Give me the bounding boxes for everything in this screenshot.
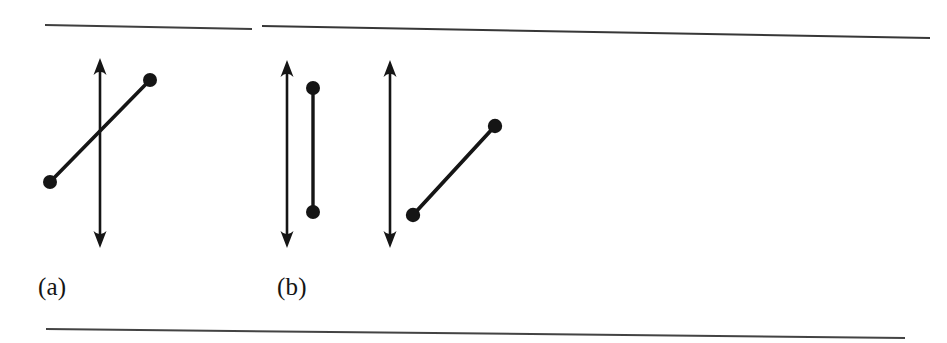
- bottom-rule-line: [46, 329, 905, 338]
- segment-endpoint-dot-end: [488, 119, 502, 133]
- segment-b-oblique-with-endpoints: [406, 119, 502, 222]
- segment-endpoint-dot-end: [306, 205, 320, 219]
- double-headed-arrows-group: [94, 58, 397, 248]
- figure-drawing-canvas: [0, 0, 947, 343]
- figure-container: (a) (b): [0, 0, 947, 343]
- segment-line: [413, 126, 495, 215]
- arrow-b-left-vertical-double-arrow: [281, 60, 294, 248]
- segment-endpoint-dot-start: [406, 208, 420, 222]
- arrow-a-vertical-double-arrow: [94, 58, 107, 248]
- segment-b-vertical-with-endpoints: [306, 81, 320, 219]
- line-segments-group: [43, 73, 502, 222]
- arrow-b-right-vertical-double-arrow: [384, 60, 397, 248]
- horizontal-rules-group: [45, 25, 930, 338]
- segment-endpoint-dot-start: [306, 81, 320, 95]
- segment-endpoint-dot-end: [143, 73, 157, 87]
- segment-endpoint-dot-start: [43, 175, 57, 189]
- panel-label-a: (a): [38, 274, 66, 299]
- top-rule-left-line: [45, 25, 252, 29]
- panel-label-b: (b): [277, 274, 307, 299]
- top-rule-right-line: [262, 26, 930, 38]
